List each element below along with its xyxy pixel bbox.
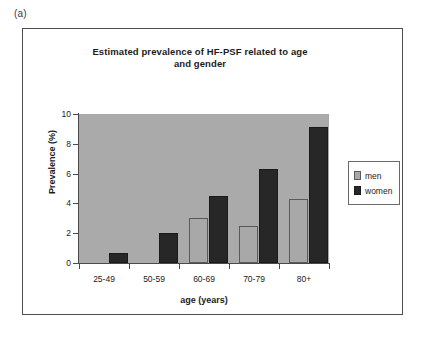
- x-tick-mark-5: [329, 264, 330, 269]
- x-tick-label-60-69: 60-69: [179, 274, 229, 284]
- y-axis-line: [78, 113, 79, 264]
- bar-women-70-79: [259, 169, 278, 263]
- x-tick-mark-2: [179, 264, 180, 269]
- x-tick-label-25-49: 25-49: [79, 274, 129, 284]
- y-tick-label-4: 4: [55, 198, 71, 208]
- plot-area: [79, 114, 329, 263]
- chart-title-line-1: Estimated prevalence of HF-PSF related t…: [55, 46, 345, 58]
- y-tick-label-8: 8: [55, 139, 71, 149]
- panel-label: (a): [14, 8, 27, 19]
- legend-item-women: women: [354, 183, 394, 198]
- y-tick-label-6-wrap: 6: [49, 169, 71, 179]
- y-tick-label-0: 0: [55, 258, 71, 268]
- bar-men-70-79: [239, 226, 258, 263]
- chart-legend: men women: [348, 161, 400, 205]
- x-tick-label-50-59: 50-59: [129, 274, 179, 284]
- x-tick-label-70-79: 70-79: [229, 274, 279, 284]
- legend-item-men: men: [354, 168, 394, 183]
- y-tick-label-2-wrap: 2: [49, 228, 71, 238]
- x-axis-title: age (years): [79, 295, 329, 305]
- bar-women-50-59: [159, 233, 178, 263]
- x-axis-line: [78, 263, 330, 264]
- x-tick-mark-4: [279, 264, 280, 269]
- y-tick-label-2: 2: [55, 228, 71, 238]
- bar-men-60-69: [189, 218, 208, 263]
- legend-label-women: women: [365, 186, 392, 196]
- y-tick-label-0-wrap: 0: [49, 258, 71, 268]
- legend-label-men: men: [365, 171, 382, 181]
- y-tick-label-4-wrap: 4: [49, 198, 71, 208]
- bar-women-60-69: [209, 196, 228, 263]
- y-tick-label-10-wrap: 10: [49, 109, 71, 119]
- x-tick-label-80plus: 80+: [279, 274, 329, 284]
- y-tick-label-6: 6: [55, 169, 71, 179]
- chart-title-line-2: and gender: [55, 58, 345, 70]
- legend-swatch-men-icon: [354, 171, 361, 180]
- x-tick-mark-1: [129, 264, 130, 269]
- x-tick-mark-0: [79, 264, 80, 269]
- bar-women-80plus: [309, 127, 328, 263]
- chart-title: Estimated prevalence of HF-PSF related t…: [55, 46, 345, 70]
- legend-swatch-women-icon: [354, 186, 361, 195]
- figure-frame: Estimated prevalence of HF-PSF related t…: [22, 28, 403, 315]
- y-tick-label-8-wrap: 8: [49, 139, 71, 149]
- x-tick-mark-3: [229, 264, 230, 269]
- bar-men-80plus: [289, 199, 308, 263]
- y-tick-label-10: 10: [55, 109, 71, 119]
- bar-women-25-49: [109, 253, 128, 263]
